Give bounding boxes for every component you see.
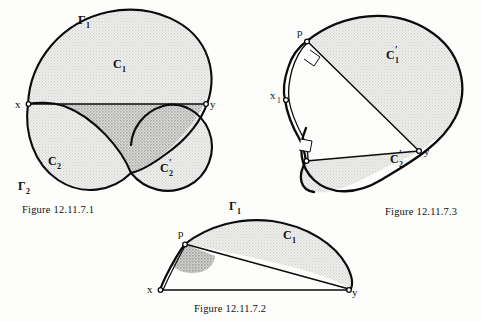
label-gamma-1-subscript-f2: 1 [237, 207, 241, 216]
label-c1-glyph-f2: C [283, 228, 292, 242]
label-gamma-1-figure-2: Γ 1 [229, 199, 241, 216]
curve-left-arc-lower-figure-3 [285, 100, 306, 161]
label-point-x-figure-2: x [147, 283, 153, 295]
figure-12-11-7-2: Γ 1 C 1 p x y Figure 12.11.7.2 [147, 199, 358, 314]
curve-left-arc-inner-upper-figure-3 [289, 43, 307, 100]
label-c1-prime-mark: ′ [395, 44, 398, 55]
figure-12-11-7-1: Γ 1 Γ 2 C 1 C 2 C 2 ′ x y Figure [15, 10, 216, 215]
label-c2-prime-mark-f3: ′ [399, 148, 402, 159]
caption-figure-3: Figure 12.11.7.3 [385, 206, 457, 217]
point-y-marker-figure-3 [417, 149, 422, 154]
label-c2-prime-subscript-f3: 2 [399, 160, 403, 169]
caption-figure-1: Figure 12.11.7.1 [22, 204, 94, 215]
label-c1-subscript: 1 [122, 65, 126, 74]
label-c2-subscript: 2 [57, 162, 61, 171]
label-gamma-1-subscript: 1 [86, 21, 90, 30]
label-gamma-2-glyph: Γ [18, 179, 26, 193]
label-c1-prime-figure-3: C 1 ′ [386, 44, 399, 65]
label-gamma-1-glyph: Γ [78, 13, 86, 27]
label-point-x1-figure-3: x 1 [270, 89, 281, 105]
label-point-y-figure-3: y [424, 145, 430, 157]
point-lower-node-marker-figure-3 [304, 159, 309, 164]
label-c2-prime-subscript: 2 [169, 169, 173, 178]
point-y-marker-figure-1 [204, 102, 209, 107]
point-x1-marker-figure-3 [284, 98, 289, 103]
label-point-x1-glyph: x [270, 89, 276, 101]
label-c2-prime-figure-1: C 2 ′ [160, 157, 173, 178]
label-gamma-2-figure-1: Γ 2 [18, 179, 30, 196]
figures-canvas: Γ 1 Γ 2 C 1 C 2 C 2 ′ x y Figure [0, 0, 482, 322]
right-angle-marker-lower-figure-3 [299, 139, 312, 152]
label-c2-prime-figure-3: C 2 ′ [390, 148, 403, 169]
label-point-y-figure-2: y [352, 286, 358, 298]
label-gamma-2-subscript: 2 [26, 187, 30, 196]
label-c1-subscript-f2: 1 [292, 236, 296, 245]
caption-figure-2: Figure 12.11.7.2 [194, 303, 266, 314]
point-x-marker-figure-1 [26, 102, 31, 107]
point-p-marker-figure-2 [183, 242, 188, 247]
point-x-marker-figure-2 [158, 288, 163, 293]
label-gamma-1-glyph-f2: Γ [229, 199, 237, 213]
label-c1-prime-subscript: 1 [395, 56, 399, 65]
label-c2-prime-mark: ′ [169, 157, 172, 168]
label-point-x-figure-1: x [15, 98, 21, 110]
label-point-p-figure-3: p [297, 26, 303, 38]
label-c2-prime-glyph: C [160, 161, 169, 175]
label-point-p-figure-2: p [178, 227, 184, 239]
label-c2-prime-glyph-f3: C [390, 152, 399, 166]
point-y-marker-figure-2 [347, 288, 352, 293]
label-c2-glyph: C [48, 154, 57, 168]
region-c1-prime-shade [307, 16, 462, 151]
label-point-x1-subscript: 1 [277, 96, 281, 105]
label-c1-prime-glyph: C [386, 48, 395, 62]
label-c1-glyph: C [113, 57, 122, 71]
figure-12-11-7-3: p x 1 y C 1 ′ C 2 ′ Figure 12.11.7.3 [270, 16, 462, 217]
curve-left-arc-upper-figure-3 [284, 41, 307, 100]
figure-page: Γ 1 Γ 2 C 1 C 2 C 2 ′ x y Figure [0, 0, 482, 322]
point-p-marker-figure-3 [305, 39, 310, 44]
label-point-y-figure-1: y [210, 98, 216, 110]
